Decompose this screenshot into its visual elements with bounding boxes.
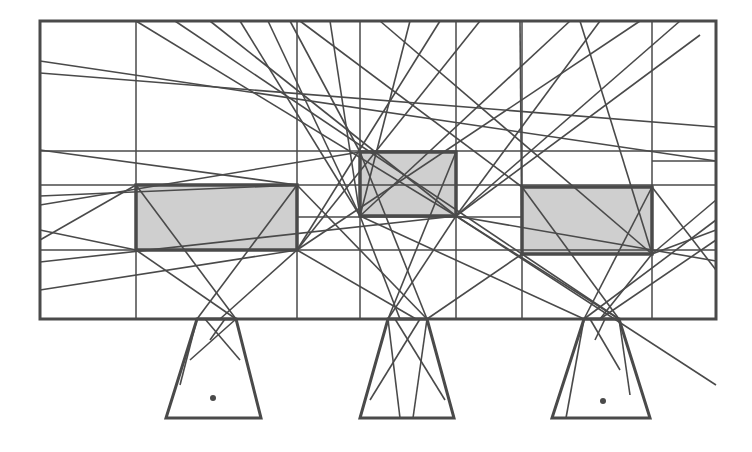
ray-line <box>427 254 522 319</box>
ray-line <box>380 21 652 254</box>
ray-line <box>388 216 456 319</box>
right-box <box>522 187 652 254</box>
ray-line <box>136 250 236 319</box>
ray-diagram <box>0 0 752 452</box>
ray-line <box>40 150 297 185</box>
ray-line <box>522 254 619 319</box>
ray-line <box>190 319 236 360</box>
ray-line <box>652 187 716 270</box>
source-dot-icon <box>600 398 606 404</box>
ray-line <box>330 21 360 216</box>
center-trapezoid <box>360 319 454 418</box>
source-dot-icon <box>210 395 216 401</box>
source-trapezoids <box>166 319 650 418</box>
ray-line <box>590 319 620 370</box>
ray-line <box>600 254 652 319</box>
ray-line <box>619 319 630 395</box>
ray-line <box>40 230 136 250</box>
ray-line <box>210 319 225 340</box>
ray-line <box>297 250 416 319</box>
